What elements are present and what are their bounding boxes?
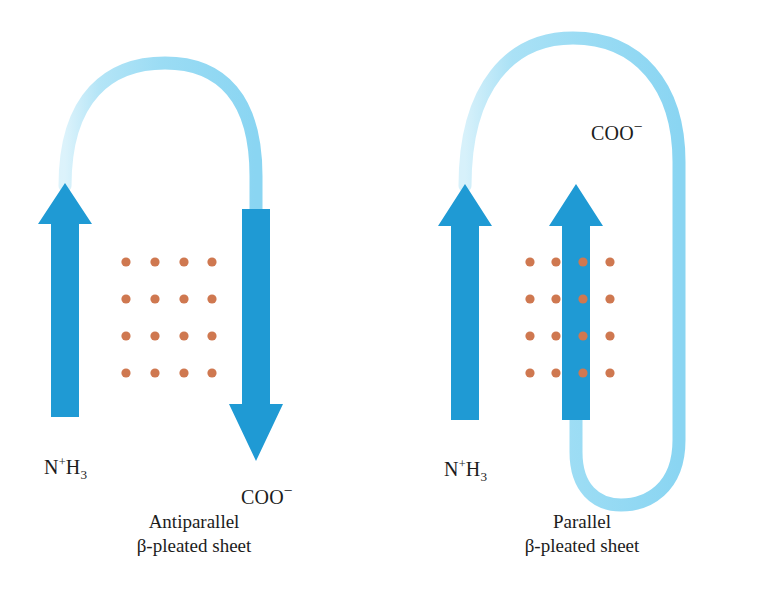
- n-terminus-base: N: [44, 456, 59, 478]
- c-terminus-base: COO: [241, 486, 284, 508]
- caption-parallel: Parallel β-pleated sheet: [388, 510, 776, 559]
- strand-arrow-down-right: [229, 209, 283, 461]
- n-terminus-element: H: [466, 458, 481, 480]
- figure-canvas: N+H3 COO− Antiparallel β-pleated sheet: [0, 0, 776, 591]
- caption-line-1: Antiparallel: [0, 510, 388, 534]
- n-terminus-count: 3: [81, 467, 88, 482]
- hydrogen-bond-dot-grid: [121, 257, 216, 377]
- label-c-terminus-antiparallel: COO−: [241, 487, 293, 507]
- label-n-terminus-parallel: N+H3: [444, 459, 487, 479]
- caption-line-2: β-pleated sheet: [388, 534, 776, 558]
- n-terminus-charge: +: [59, 455, 66, 469]
- label-c-terminus-parallel: COO−: [591, 123, 643, 143]
- caption-antiparallel: Antiparallel β-pleated sheet: [0, 510, 388, 559]
- strand-arrow-up-left: [38, 183, 92, 417]
- caption-line-1: Parallel: [388, 510, 776, 534]
- n-terminus-element: H: [66, 456, 81, 478]
- n-terminus-base: N: [444, 458, 459, 480]
- caption-line-2: β-pleated sheet: [0, 534, 388, 558]
- panel-antiparallel: N+H3 COO− Antiparallel β-pleated sheet: [0, 0, 388, 591]
- n-terminus-count: 3: [481, 469, 488, 484]
- connecting-loop: [65, 63, 256, 212]
- panel-parallel: N+H3 COO− Parallel β-pleated sheet: [388, 0, 776, 591]
- strand-arrow-up-left: [438, 184, 492, 420]
- c-terminus-charge: −: [634, 118, 643, 135]
- antiparallel-sheet-drawing: [0, 0, 388, 591]
- c-terminus-charge: −: [284, 482, 293, 499]
- c-terminus-base: COO: [591, 122, 634, 144]
- parallel-sheet-drawing: [388, 0, 776, 591]
- n-terminus-charge: +: [459, 457, 466, 471]
- label-n-terminus-antiparallel: N+H3: [44, 457, 87, 477]
